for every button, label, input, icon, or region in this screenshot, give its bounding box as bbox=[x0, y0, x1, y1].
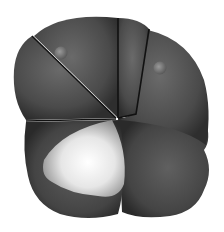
cell-cluster-render bbox=[0, 0, 224, 232]
nub-left bbox=[55, 47, 68, 60]
nub-right bbox=[154, 62, 167, 75]
